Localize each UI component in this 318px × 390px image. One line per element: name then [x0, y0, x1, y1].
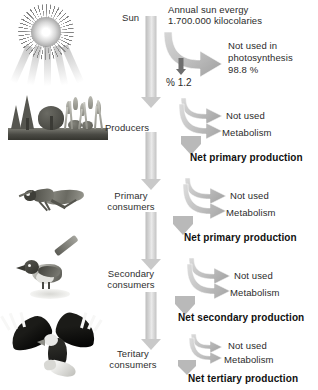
loss-value-photosynthesis: 98.8 % — [228, 64, 258, 76]
loss-label-photosynthesis-line2: photosynthesis — [228, 52, 293, 64]
loss-arrows-secondary-consumers — [190, 258, 256, 306]
secondary-consumer-illustration — [14, 248, 92, 304]
loss-label-photosynthesis-line1: Not used in — [228, 40, 277, 52]
flow-arrow-sun-to-producers — [139, 16, 163, 108]
arrow-head — [176, 69, 186, 75]
primary-consumer-illustration — [18, 182, 90, 216]
bird-beak — [16, 265, 25, 271]
producers-illustration — [8, 84, 108, 140]
loss-not-used-primary-consumers: Not used — [230, 190, 269, 202]
transfer-arrow-photosynthesis — [174, 58, 188, 76]
bird-tail — [54, 235, 79, 257]
loss-metabolism-tertiary-consumers: Metabolism — [224, 354, 274, 366]
eagle-wing-feather — [9, 313, 18, 330]
net-production-producers: Net primary production — [190, 152, 303, 163]
flow-arrow-primary-to-secondary — [139, 212, 163, 270]
transfer-value-photosynthesis: % 1.2 — [166, 77, 192, 88]
net-production-tertiary-consumers: Net tertiary production — [188, 373, 298, 384]
arrow-head — [141, 179, 161, 190]
level-label-line2: consumers — [98, 201, 164, 212]
level-label-line2: consumers — [94, 279, 168, 290]
net-production-primary-consumers: Net primary production — [184, 232, 297, 243]
conifer-tree — [11, 105, 21, 129]
arrow-shaft — [146, 292, 157, 340]
tree-trunk — [26, 118, 29, 130]
bird-leg — [42, 282, 44, 289]
arrow-head — [141, 339, 161, 350]
eagle-wing-feather — [93, 319, 102, 332]
arrow-head — [141, 259, 161, 270]
tree-trunk — [50, 116, 53, 130]
arrow-shaft — [146, 132, 157, 180]
energy-flow-diagram: Sun Producers Primary consumers Secondar… — [0, 0, 318, 390]
tertiary-consumer-illustration — [4, 312, 108, 382]
sun-disc-icon — [31, 17, 61, 47]
sun-beam — [44, 46, 51, 86]
eagle-beak — [37, 339, 45, 346]
loss-metabolism-primary-consumers: Metabolism — [226, 207, 276, 219]
arrow-shaft — [146, 16, 157, 98]
level-label-tertiary-consumers: Teritary consumers — [98, 348, 168, 370]
level-label-line2: consumers — [98, 359, 168, 370]
eagle-head — [44, 334, 58, 346]
arrow-head — [141, 97, 161, 108]
grass-seedhead — [73, 97, 78, 110]
bird-eye — [28, 264, 31, 267]
loss-not-used-producers: Not used — [226, 110, 265, 122]
loss-not-used-tertiary-consumers: Not used — [228, 340, 267, 352]
loss-metabolism-producers: Metabolism — [222, 127, 272, 139]
sun-energy-title: Annual sun evergy — [168, 4, 248, 16]
bird-leg — [48, 282, 50, 289]
sun-energy-value: 1.700.000 kilocolaries — [168, 15, 262, 27]
bird-perch — [30, 289, 70, 299]
eagle-wing-feather — [0, 315, 11, 330]
grass-seedhead — [88, 96, 93, 109]
ground-strip — [8, 128, 108, 140]
level-label-secondary-consumers: Secondary consumers — [94, 268, 168, 290]
sun-label: Sun — [122, 12, 139, 23]
loss-metabolism-secondary-consumers: Metabolism — [230, 287, 280, 299]
flow-arrow-producers-to-primary — [139, 132, 163, 190]
loss-not-used-secondary-consumers: Not used — [234, 270, 273, 282]
arrow-shaft — [146, 212, 157, 260]
level-label-line1: Primary — [98, 190, 164, 201]
net-production-secondary-consumers: Net secondary production — [178, 312, 304, 323]
bird-head — [24, 260, 39, 274]
level-label-primary-consumers: Primary consumers — [98, 190, 164, 212]
sun-illustration — [4, 2, 96, 80]
flow-arrow-secondary-to-tertiary — [139, 292, 163, 350]
